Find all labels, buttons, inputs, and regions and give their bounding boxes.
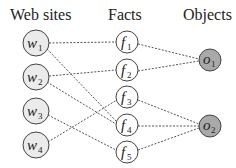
edge-w3-f5	[48, 115, 116, 150]
node-subscript: 2	[211, 125, 216, 135]
edge-w1-f4	[47, 49, 117, 122]
node-label: o	[203, 117, 211, 133]
edge-w1-f1	[49, 42, 116, 43]
edge-f5-o2	[138, 128, 199, 150]
node-label: w	[27, 35, 37, 51]
node-f4: f 4	[116, 114, 138, 136]
header-objects: Objects	[183, 6, 232, 24]
node-subscript: 1	[38, 43, 43, 53]
node-o1: o 1	[199, 49, 221, 71]
edge-f1-o1	[138, 44, 199, 59]
edge-f3-o2	[138, 100, 199, 124]
node-subscript: 2	[38, 77, 43, 87]
edge-w2-f2	[49, 70, 116, 76]
header-facts: Facts	[108, 6, 142, 23]
node-label: w	[27, 69, 37, 85]
node-f1: f 1	[116, 31, 138, 53]
node-w3: w 3	[23, 98, 49, 124]
node-subscript: 4	[127, 125, 132, 135]
node-subscript: 4	[38, 145, 43, 155]
node-subscript: 2	[127, 70, 132, 80]
node-label: w	[27, 137, 37, 153]
node-f3: f 3	[116, 86, 138, 108]
header-websites: Web sites	[10, 6, 71, 23]
node-label: o	[203, 51, 211, 67]
edge-w4-f3	[48, 100, 117, 142]
node-label: w	[27, 103, 37, 119]
node-subscript: 3	[127, 97, 132, 107]
node-w4: w 4	[23, 132, 49, 158]
node-f5: f 5	[116, 141, 138, 163]
node-subscript: 1	[211, 59, 216, 69]
diagram-canvas: Web sites Facts Objects w 1 w 2 w 3 w 4	[0, 0, 236, 168]
node-subscript: 1	[127, 42, 132, 52]
node-f2: f 2	[116, 59, 138, 81]
node-subscript: 3	[38, 111, 43, 121]
node-subscript: 5	[127, 152, 132, 162]
node-w2: w 2	[23, 64, 49, 90]
node-w1: w 1	[23, 30, 49, 56]
edge-f2-o1	[138, 61, 199, 71]
node-o2: o 2	[199, 115, 221, 137]
edge-w2-f4	[47, 82, 116, 124]
